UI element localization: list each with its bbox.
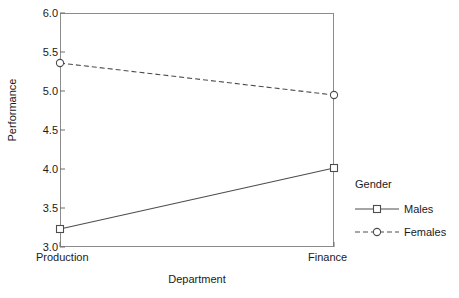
legend: Gender Males Females <box>355 178 459 247</box>
x-tick-label-finance: Finance <box>308 251 347 263</box>
y-tick-label-1: 3.5 <box>12 203 58 214</box>
legend-label-females: Females <box>404 226 446 238</box>
legend-key-females-dashed-circle-icon <box>355 225 399 239</box>
y-tick-label-2: 4.0 <box>12 164 58 175</box>
x-tick-label-production: Production <box>36 251 89 263</box>
y-tick-label-5: 5.5 <box>12 47 58 58</box>
legend-title: Gender <box>355 178 459 190</box>
legend-key-males-solid-square-icon <box>355 202 399 216</box>
y-axis-title: Performance <box>6 60 18 160</box>
legend-item-males[interactable]: Males <box>355 201 459 216</box>
legend-label-males: Males <box>404 203 433 215</box>
performance-by-department-chart: 6.0 5.5 5.0 4.5 4.0 3.5 3.0 Performance … <box>0 0 459 298</box>
y-tick-label-6: 6.0 <box>12 8 58 19</box>
x-axis-title: Department <box>60 273 334 285</box>
y-tick-label-4: 5.0 <box>12 86 58 97</box>
plot-area <box>60 13 334 247</box>
y-tick-label-3: 4.5 <box>12 125 58 136</box>
legend-item-females[interactable]: Females <box>355 224 459 239</box>
